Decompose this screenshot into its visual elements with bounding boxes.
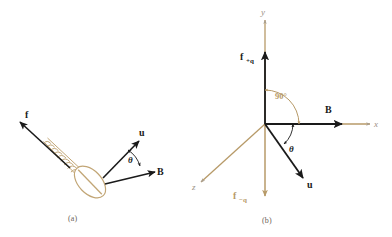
vector-f-minus-q-symbol: f xyxy=(233,190,237,201)
axis-y-label: y xyxy=(260,7,265,17)
angle-right-label: 90° xyxy=(275,91,287,101)
vector-u-label-a: u xyxy=(139,127,145,138)
axis-z-line xyxy=(201,124,265,182)
vector-f-arrow-a xyxy=(20,122,70,168)
caption-panel-b: (b) xyxy=(262,216,272,225)
vector-f-plus-q-label: f +q xyxy=(240,51,254,65)
panel-b: y x z f −q f +q B u 90° θ xyxy=(191,7,378,204)
vector-f-minus-q-subscript: −q xyxy=(239,196,247,204)
axis-x-label: x xyxy=(373,119,378,129)
angle-theta-arc-b xyxy=(284,124,293,144)
vector-f-label-a: f xyxy=(25,109,29,120)
screw-threads xyxy=(44,141,81,172)
vector-f-plus-q-symbol: f xyxy=(240,51,244,62)
vector-B-label-a: B xyxy=(157,166,164,177)
vector-f-minus-q-label: f −q xyxy=(233,190,247,204)
vector-B-arrow-a xyxy=(105,172,155,184)
vector-u-label-b: u xyxy=(307,179,313,190)
angle-theta-label-a: θ xyxy=(128,155,133,165)
vector-u-arrow-a xyxy=(103,141,139,178)
vector-f-plus-q-subscript: +q xyxy=(246,57,254,65)
angle-theta-label-b: θ xyxy=(289,144,294,154)
panel-a: f u B θ xyxy=(20,109,164,204)
axis-z-label: z xyxy=(191,182,196,192)
physics-figure: f u B θ y x z f −q f +q xyxy=(0,0,392,237)
caption-panel-a: (a) xyxy=(68,214,77,223)
vector-u-arrow-b xyxy=(265,124,303,178)
figure-canvas: f u B θ y x z f −q f +q xyxy=(0,0,392,237)
vector-B-label-b: B xyxy=(325,104,332,115)
